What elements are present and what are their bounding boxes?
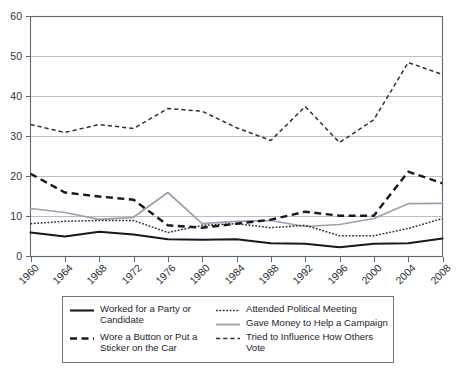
legend-swatch-dashed-black (69, 332, 95, 345)
y-tick-50: 50 (10, 50, 22, 62)
legend-item-meeting: Attended Political Meeting (213, 303, 395, 317)
x-tick-label-1976: 1976 (153, 261, 178, 286)
x-tick-label-2004: 2004 (393, 261, 418, 286)
x-tick-label-1980: 1980 (187, 261, 212, 286)
y-tick-10: 10 (10, 210, 22, 222)
x-tick-label-1972: 1972 (119, 261, 144, 286)
legend-label-button: Wore a Button or Put a Sticker on the Ca… (100, 331, 211, 354)
x-axis-labels: 1960196419681972197619801984198819921996… (16, 261, 453, 286)
y-tick-30: 30 (10, 130, 22, 142)
y-tick-40: 40 (10, 90, 22, 102)
chart-legend: Worked for a Party or Candidate Wore a B… (62, 296, 394, 363)
legend-item-button: Wore a Button or Put a Sticker on the Ca… (63, 331, 213, 354)
legend-item-worked: Worked for a Party or Candidate (63, 303, 213, 331)
x-tick-label-1996: 1996 (325, 261, 350, 286)
legend-label-influence: Tried to Influence How Others Vote (246, 331, 393, 354)
y-axis: 60 50 40 30 20 10 0 (10, 10, 30, 262)
x-tick-label-1988: 1988 (256, 261, 281, 286)
legend-swatch-dotted (215, 304, 241, 317)
line-chart: 60 50 40 30 20 10 0 19601964196819721976… (0, 0, 457, 300)
y-tick-0: 0 (16, 250, 22, 262)
x-tick-label-1964: 1964 (50, 261, 75, 286)
legend-label-meeting: Attended Political Meeting (246, 303, 357, 314)
x-tick-label-1960: 1960 (16, 261, 41, 286)
x-tick-label-2008: 2008 (428, 261, 453, 286)
x-tick-label-1984: 1984 (222, 261, 247, 286)
figure-root: 60 50 40 30 20 10 0 19601964196819721976… (0, 0, 457, 374)
legend-item-money: Gave Money to Help a Campaign (213, 317, 395, 331)
legend-swatch-dashed-fine (215, 332, 241, 345)
y-tick-60: 60 (10, 10, 22, 22)
legend-label-worked: Worked for a Party or Candidate (100, 303, 211, 326)
legend-item-influence: Tried to Influence How Others Vote (213, 331, 395, 354)
x-tick-label-1968: 1968 (84, 261, 109, 286)
legend-swatch-solid-black (69, 304, 95, 317)
x-tick-label-2000: 2000 (359, 261, 384, 286)
legend-label-money: Gave Money to Help a Campaign (246, 317, 388, 328)
y-tick-20: 20 (10, 170, 22, 182)
legend-swatch-solid-gray (215, 318, 241, 331)
x-tick-label-1992: 1992 (290, 261, 315, 286)
chart-area: 60 50 40 30 20 10 0 19601964196819721976… (0, 0, 457, 300)
x-axis-ticks (32, 257, 444, 262)
